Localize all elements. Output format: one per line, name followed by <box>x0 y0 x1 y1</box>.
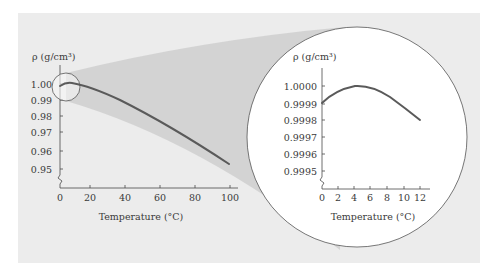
x-tick-label: 12 <box>414 192 426 203</box>
y-tick-label: 0.9999 <box>284 99 317 110</box>
x-tick-label: 4 <box>351 192 357 203</box>
inset-y-axis-title: ρ (g/cm³) <box>293 51 336 62</box>
y-tick-label: 0.95 <box>31 164 52 175</box>
x-tick-label: 0 <box>57 192 63 203</box>
x-tick-label: 20 <box>84 192 96 203</box>
x-tick-label: 40 <box>119 192 131 203</box>
x-tick-label: 80 <box>189 192 201 203</box>
y-tick-label: 0.98 <box>31 111 52 122</box>
x-tick-label: 0 <box>319 192 325 203</box>
x-tick-label: 6 <box>367 192 373 203</box>
y-tick-label: 0.96 <box>31 146 52 157</box>
x-tick-label: 10 <box>398 192 410 203</box>
y-tick-label: 0.97 <box>31 127 52 138</box>
zoom-region-circle <box>52 73 80 101</box>
y-tick-label: 0.9996 <box>284 149 317 160</box>
y-tick-label: 0.9998 <box>284 115 317 126</box>
y-tick-label: 1.00 <box>31 79 52 90</box>
x-tick-label: 2 <box>335 192 341 203</box>
y-tick-label: 0.9997 <box>284 132 317 143</box>
y-tick-label: 0.9995 <box>284 166 317 177</box>
y-tick-label: 0.99 <box>31 95 52 106</box>
x-tick-label: 100 <box>221 192 239 203</box>
main-x-axis-title: Temperature (°C) <box>99 211 184 222</box>
density-figure: ρ (g/cm³) 1.00 0.99 0.98 0.97 0.96 0.95 <box>0 0 495 272</box>
inset-x-axis-title: Temperature (°C) <box>331 211 416 222</box>
x-tick-label: 8 <box>384 192 390 203</box>
main-y-axis-title: ρ (g/cm³) <box>32 51 75 62</box>
x-tick-label: 60 <box>154 192 166 203</box>
y-tick-label: 1.0000 <box>284 81 317 92</box>
inset-x-tick-labels: 0 2 4 6 8 10 12 <box>319 192 426 203</box>
